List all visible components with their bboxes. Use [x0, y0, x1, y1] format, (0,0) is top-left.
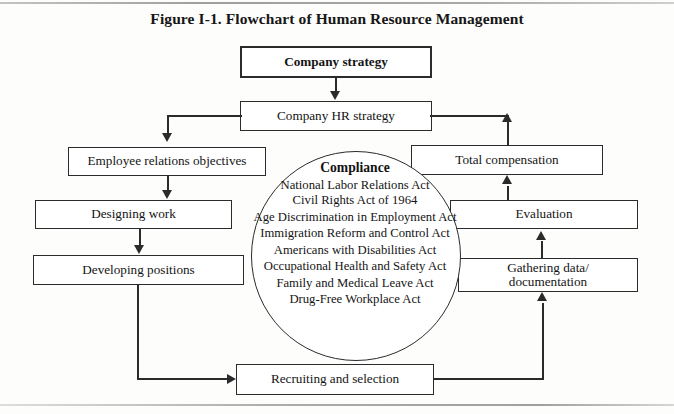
connector-hr-left-vertical	[167, 115, 169, 134]
arrowhead-recruiting-to-gathering	[537, 292, 547, 301]
connector-recruiting-to-gathering-vertical	[542, 303, 544, 379]
connector-employee-to-designing	[167, 176, 169, 191]
node-designing-work-label: Designing work	[91, 207, 176, 222]
node-company-strategy[interactable]: Company strategy	[240, 46, 432, 78]
node-recruiting-and-selection-label: Recruiting and selection	[271, 372, 399, 387]
connector-developing-to-recruiting-horizontal	[137, 378, 229, 380]
arrowhead-hr-to-employee-relations	[162, 133, 172, 142]
node-company-hr-strategy-label: Company HR strategy	[277, 109, 395, 124]
arrowhead-evaluation-to-total-comp	[502, 175, 512, 184]
connector-designing-to-developing	[139, 229, 141, 246]
node-gathering-data-label-line2: documentation	[509, 275, 587, 289]
connector-gathering-to-evaluation	[541, 241, 543, 259]
node-designing-work[interactable]: Designing work	[35, 200, 232, 229]
connector-evaluation-to-total-comp	[507, 186, 509, 201]
node-employee-relations-objectives-label: Employee relations objectives	[88, 154, 247, 169]
node-gathering-data[interactable]: Gathering data/ documentation	[458, 258, 638, 292]
node-evaluation[interactable]: Evaluation	[450, 200, 638, 229]
connector-developing-down	[137, 285, 139, 379]
node-developing-positions[interactable]: Developing positions	[33, 255, 244, 285]
node-company-hr-strategy[interactable]: Company HR strategy	[240, 101, 432, 131]
node-total-compensation[interactable]: Total compensation	[411, 145, 603, 175]
connector-recruiting-to-gathering-horizontal	[434, 378, 544, 380]
node-gathering-data-label-line1: Gathering data/	[507, 261, 589, 275]
node-total-compensation-label: Total compensation	[455, 153, 558, 168]
figure-canvas: Figure I-1. Flowchart of Human Resource …	[0, 0, 674, 414]
connector-total-comp-horizontal	[430, 115, 508, 117]
arrowhead-designing-to-developing	[134, 245, 144, 254]
arrowhead-strategy-to-hr	[330, 91, 340, 100]
page-bottom-rule	[0, 404, 674, 406]
arrowhead-employee-to-designing	[162, 190, 172, 199]
node-evaluation-label: Evaluation	[515, 207, 572, 222]
node-developing-positions-label: Developing positions	[82, 263, 194, 278]
connector-strategy-to-hr	[335, 78, 337, 92]
connector-hr-left-horizontal	[167, 115, 242, 117]
node-company-strategy-label: Company strategy	[284, 55, 388, 70]
node-recruiting-and-selection[interactable]: Recruiting and selection	[236, 364, 434, 395]
node-employee-relations-objectives[interactable]: Employee relations objectives	[68, 147, 266, 176]
page-top-rule	[0, 2, 674, 4]
arrowhead-developing-to-recruiting	[227, 374, 236, 384]
page-title: Figure I-1. Flowchart of Human Resource …	[0, 10, 674, 28]
compliance-circle	[251, 151, 461, 361]
arrowhead-total-comp-to-hr	[502, 113, 512, 122]
arrowhead-gathering-to-evaluation	[536, 231, 546, 240]
